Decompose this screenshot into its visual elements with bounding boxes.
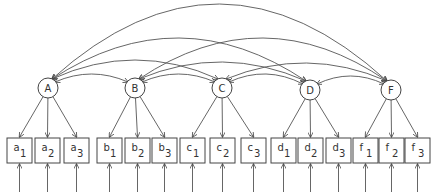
indicator-subscript: 2 [223,148,229,159]
indicator-subscript: 2 [311,148,317,159]
indicator-c3: c3 [241,138,266,163]
indicator-subscript: 1 [110,148,116,159]
covariance-A-B [55,74,128,82]
indicator-subscript: 3 [77,148,83,159]
loading-D-d3 [315,99,338,137]
indicator-label: b [104,142,110,153]
indicator-label: c [187,142,193,153]
indicator-c2: c2 [210,138,235,163]
indicator-f3: f3 [405,138,430,163]
covariance-B-F [139,38,387,81]
indicator-label: c [217,142,223,153]
indicator-subscript: 1 [193,148,199,159]
indicator-b2: b2 [125,138,150,163]
indicator-d1: d1 [271,138,296,163]
indicator-subscript: 1 [366,148,372,159]
sem-diagram: a1a2a3b1b2b3c1c2c3d1d2d3f1f2f3ABCDF [0,0,434,192]
indicator-d3: d3 [326,138,351,163]
indicator-a1: a1 [7,138,32,163]
indicator-label: f [412,142,416,153]
indicator-a2: a2 [35,138,60,163]
indicator-label: b [132,142,138,153]
factor-B: B [125,78,145,98]
indicator-label: d [333,142,339,153]
factor-label: D [306,85,314,96]
loading-D-d1 [284,99,306,137]
indicator-c1: c1 [180,138,205,163]
indicator-label: a [42,142,48,153]
loading-F-f3 [396,99,418,137]
loading-C-c3 [227,96,253,137]
indicator-subscript: 3 [254,148,260,159]
indicator-label: d [305,142,311,153]
loading-A-a1 [20,97,44,137]
factor-label: F [388,85,394,96]
factor-label: B [132,83,139,94]
loading-C-c1 [193,97,217,137]
indicator-label: a [14,142,20,153]
indicator-b3: b3 [152,138,177,163]
loading-A-a3 [53,97,77,137]
indicator-label: a [71,142,77,153]
covariance-arcs [52,4,387,84]
factor-label: A [45,83,52,94]
covariance-A-D [52,38,306,81]
indicator-b1: b1 [97,138,122,163]
indicator-label: f [386,142,390,153]
indicator-d2: d2 [298,138,323,163]
indicator-subscript: 3 [339,148,345,159]
indicator-label: d [278,142,284,153]
loading-F-f1 [366,99,387,137]
indicator-subscript: 1 [20,148,26,159]
covariance-B-C [142,74,215,82]
loading-B-b2 [135,98,137,137]
factor-D: D [300,80,320,100]
indicator-a3: a3 [64,138,89,163]
indicator-subscript: 2 [392,148,398,159]
factor-C: C [212,78,232,98]
factor-F: F [381,80,401,100]
indicator-subscript: 2 [48,148,54,159]
nodes: a1a2a3b1b2b3c1c2c3d1d2d3f1f2f3ABCDF [7,78,430,163]
indicator-subscript: 3 [418,148,424,159]
indicator-f2: f2 [379,138,404,163]
covariance-A-C [52,60,218,79]
factor-A: A [38,78,58,98]
factor-loadings [20,96,418,137]
indicator-subscript: 1 [284,148,290,159]
loading-B-b1 [110,97,131,137]
loading-B-b3 [140,97,164,137]
covariance-D-F [317,76,384,84]
error-terms [20,164,418,192]
indicator-subscript: 2 [138,148,144,159]
factor-label: C [219,83,226,94]
indicator-label: b [159,142,165,153]
indicator-label: f [360,142,364,153]
indicator-subscript: 3 [165,148,171,159]
indicator-label: c [248,142,254,153]
indicator-f1: f1 [353,138,378,163]
